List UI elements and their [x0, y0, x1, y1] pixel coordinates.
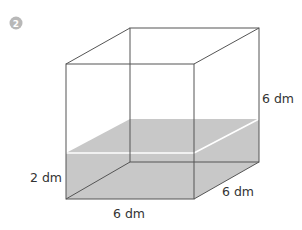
water-height-label: 2 dm — [30, 170, 62, 185]
height-label: 6 dm — [262, 91, 294, 106]
width-label: 6 dm — [113, 206, 145, 221]
problem-number: 2 — [13, 19, 19, 29]
cube-diagram: 2 6 dm 2 dm 6 dm 6 dm — [0, 0, 302, 230]
problem-number-badge: 2 — [10, 17, 23, 30]
depth-label: 6 dm — [222, 184, 254, 199]
